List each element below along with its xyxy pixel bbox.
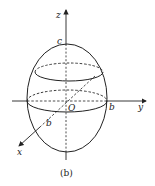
equator-back: [27, 90, 107, 101]
x-intercept-label: b: [46, 118, 52, 128]
x-axis: [19, 127, 40, 146]
x-axis-label: x: [17, 147, 22, 157]
c-intercept-label: c: [57, 36, 62, 46]
z-axis-label: z: [55, 10, 61, 20]
upper-section-back: [35, 63, 103, 72]
figure-caption: (b): [60, 168, 73, 178]
ellipsoid-outline: [27, 44, 107, 152]
equator-front: [27, 101, 107, 112]
origin-label: O: [68, 103, 76, 113]
upper-section-front: [35, 72, 103, 81]
y-intercept-label: b: [109, 102, 115, 112]
ellipsoid-diagram: z c O b y b x (b): [0, 0, 155, 186]
y-axis-label: y: [137, 102, 144, 112]
